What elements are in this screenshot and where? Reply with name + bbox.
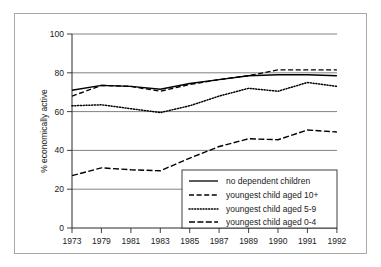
series-lines [72,70,337,176]
x-tick-label: 1985 [180,236,199,246]
x-tick-label: 1983 [151,236,170,246]
y-tick-labels: 100 80 60 40 20 0 [50,29,64,233]
y-tick-label: 100 [50,29,64,39]
line-chart: 100 80 60 40 20 0 1973 1979 1981 1983 19… [0,0,381,267]
legend-label: youngest child aged 5-9 [226,204,317,214]
legend: no dependent children youngest child age… [182,170,337,228]
y-tick-label: 40 [55,145,65,155]
gridlines [72,34,337,189]
series-youngest-child-aged-5-9 [72,83,337,113]
y-tick-label: 80 [55,68,65,78]
x-tick-label: 1989 [239,236,258,246]
y-tick-label: 0 [59,223,64,233]
x-tick-marks [72,228,337,233]
x-tick-label: 1981 [121,236,140,246]
series-no-dependent-children [72,75,337,91]
y-axis-title: % economically active [39,89,49,173]
legend-label: youngest child aged 10+ [226,190,318,200]
y-tick-label: 20 [55,184,65,194]
x-tick-label: 1973 [63,236,82,246]
series-youngest-child-aged-10plus [72,70,337,96]
x-tick-label: 1992 [327,236,346,246]
legend-label: youngest child aged 0-4 [226,217,317,227]
x-tick-label: 1991 [298,236,317,246]
x-tick-labels: 1973 1979 1981 1983 1985 1987 1989 1990 … [63,236,347,246]
x-tick-label: 1990 [269,236,288,246]
y-tick-marks [67,34,72,228]
x-tick-label: 1979 [92,236,111,246]
x-tick-label: 1987 [210,236,229,246]
series-youngest-child-aged-0-4 [72,130,337,176]
y-tick-label: 60 [55,107,65,117]
legend-label: no dependent children [226,176,310,186]
